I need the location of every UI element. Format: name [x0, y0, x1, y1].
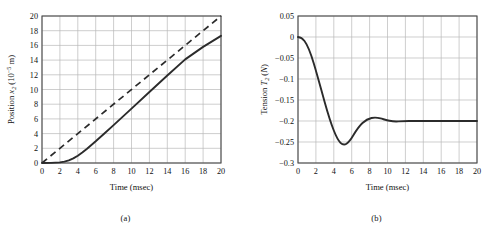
x-tick-a-4: 4 [76, 167, 80, 176]
x-tick-b-18: 18 [455, 167, 463, 176]
y-tick-a-0: 0 [34, 159, 38, 168]
y-tick-a-14: 14 [30, 56, 38, 65]
x-axis-title-b: Time (msec) [366, 182, 410, 192]
figure-container: 20 18 16 14 12 10 8 6 4 2 0 0 2 4 6 8 10… [0, 0, 503, 227]
y-axis-ticks-b: 0.05 0 −0.05 −0.1 −0.15 −0.2 −0.25 −0.3 [275, 12, 294, 168]
y-tick-b-4: −0.15 [275, 96, 294, 105]
x-tick-b-10: 10 [383, 167, 391, 176]
y-tick-b-1: 0 [290, 33, 294, 42]
y-tick-b-3: −0.1 [279, 75, 294, 84]
x-tick-a-14: 14 [163, 167, 171, 176]
x-tick-a-0: 0 [40, 167, 44, 176]
y-tick-b-2: −0.05 [275, 54, 294, 63]
y-tick-b-5: −0.2 [279, 117, 294, 126]
y-tick-a-16: 16 [30, 41, 38, 50]
x-tick-b-8: 8 [368, 167, 372, 176]
x-tick-a-12: 12 [145, 167, 153, 176]
y-axis-title-a-unit-close: m) [6, 55, 16, 67]
x-tick-a-18: 18 [199, 167, 207, 176]
y-axis-title-a: Position x2 (10−5 m) [6, 55, 17, 124]
y-axis-title-b-unit-close: ) [259, 64, 269, 67]
y-axis-title-a-main: Position [6, 94, 16, 124]
panel-caption-a: (a) [0, 213, 251, 223]
y-axis-title-b: Tension T2 (N) [259, 64, 270, 115]
x-tick-b-6: 6 [350, 167, 354, 176]
grid-b [298, 16, 477, 163]
x-tick-a-6: 6 [94, 167, 98, 176]
x-tick-a-8: 8 [112, 167, 116, 176]
y-tick-b-7: −0.3 [279, 159, 294, 168]
chart-a-svg: 20 18 16 14 12 10 8 6 4 2 0 0 2 4 6 8 10… [0, 0, 251, 200]
x-tick-b-16: 16 [437, 167, 445, 176]
x-tick-b-4: 4 [332, 167, 336, 176]
y-tick-a-6: 6 [34, 115, 38, 124]
chart-panel-b: 0.05 0 −0.05 −0.1 −0.15 −0.2 −0.25 −0.3 … [251, 0, 502, 227]
y-tick-b-6: −0.25 [275, 138, 294, 147]
y-tick-a-10: 10 [30, 86, 38, 95]
y-axis-title-a-unit-open: (10 [6, 73, 16, 87]
x-tick-a-16: 16 [181, 167, 189, 176]
y-tick-a-12: 12 [30, 71, 38, 80]
x-axis-title-a: Time (msec) [110, 182, 154, 192]
panel-caption-b: (b) [251, 213, 502, 223]
x-tick-a-10: 10 [127, 167, 135, 176]
y-tick-b-0: 0.05 [280, 12, 294, 21]
y-tick-a-18: 18 [30, 27, 38, 36]
x-tick-a-20: 20 [217, 167, 225, 176]
chart-panel-a: 20 18 16 14 12 10 8 6 4 2 0 0 2 4 6 8 10… [0, 0, 251, 227]
x-tick-b-0: 0 [296, 167, 300, 176]
y-tick-a-8: 8 [34, 100, 38, 109]
x-tick-b-2: 2 [314, 167, 318, 176]
x-tick-b-20: 20 [473, 167, 481, 176]
x-axis-ticks-b: 0 2 4 6 8 10 12 14 16 18 20 [296, 167, 481, 176]
y-tick-a-2: 2 [34, 144, 38, 153]
y-tick-a-4: 4 [34, 130, 38, 139]
x-axis-ticks-a: 0 2 4 6 8 10 12 14 16 18 20 [40, 167, 225, 176]
y-axis-ticks-a: 20 18 16 14 12 10 8 6 4 2 0 [30, 12, 38, 168]
x-tick-a-2: 2 [58, 167, 62, 176]
y-tick-a-20: 20 [30, 12, 38, 21]
y-axis-title-b-main: Tension [259, 86, 269, 115]
x-tick-b-12: 12 [401, 167, 409, 176]
chart-b-svg: 0.05 0 −0.05 −0.1 −0.15 −0.2 −0.25 −0.3 … [251, 0, 502, 200]
x-tick-b-14: 14 [419, 167, 427, 176]
